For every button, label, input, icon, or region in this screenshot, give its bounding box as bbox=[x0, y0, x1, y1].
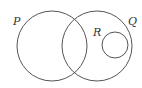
set-p-circle bbox=[17, 11, 87, 81]
venn-diagram: P Q R bbox=[0, 0, 142, 88]
set-r-label: R bbox=[92, 26, 101, 39]
set-q-label: Q bbox=[128, 15, 137, 28]
set-q-circle bbox=[62, 11, 132, 81]
set-p-label: P bbox=[12, 15, 21, 28]
set-r-circle bbox=[102, 32, 128, 58]
